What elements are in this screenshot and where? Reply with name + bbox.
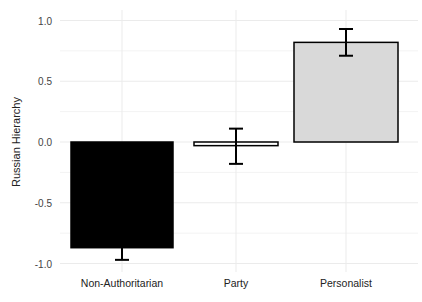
- x-tick-label: Non-Authoritarian: [81, 277, 163, 289]
- y-axis-ticks: 1.00.50.0-0.5-1.0: [35, 16, 53, 270]
- y-tick-label: -1.0: [35, 259, 53, 270]
- bar-personalist: [294, 42, 398, 142]
- y-tick-label: 0.5: [38, 76, 52, 87]
- y-tick-label: 0.0: [38, 137, 52, 148]
- x-axis-ticks: Non-AuthoritarianPartyPersonalist: [81, 277, 372, 289]
- y-axis-label: Russian Hierarchy: [10, 97, 22, 187]
- y-tick-label: 1.0: [38, 16, 52, 27]
- bar-non-authoritarian: [71, 142, 173, 248]
- bar-chart: 1.00.50.0-0.5-1.0 Non-AuthoritarianParty…: [0, 0, 422, 302]
- y-tick-label: -0.5: [35, 198, 53, 209]
- x-tick-label: Party: [224, 277, 249, 289]
- bars: [71, 29, 398, 260]
- x-tick-label: Personalist: [320, 277, 372, 289]
